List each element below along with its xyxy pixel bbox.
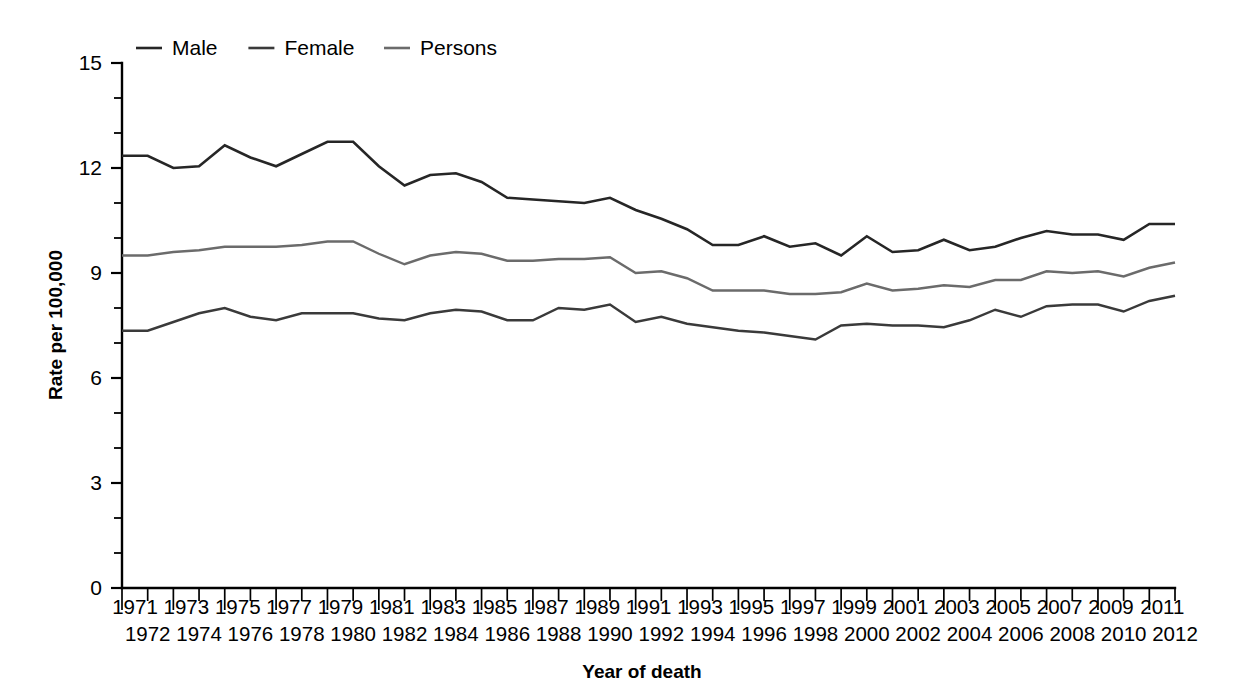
x-tick-label: 1983	[420, 595, 466, 618]
x-tick-label: 2007	[1037, 595, 1083, 618]
x-tick-label: 1990	[587, 622, 633, 645]
series-line-persons	[122, 242, 1175, 295]
x-tick-label: 2012	[1152, 622, 1198, 645]
x-tick-label: 1971	[112, 595, 158, 618]
x-tick-label: 1991	[626, 595, 672, 618]
series-line-male	[122, 142, 1175, 256]
x-tick-label: 2002	[895, 622, 941, 645]
x-tick-label: 2005	[985, 595, 1031, 618]
x-tick-label: 1992	[639, 622, 685, 645]
line-chart: MaleFemalePersons 03691215 1971197219731…	[0, 0, 1246, 692]
x-tick-label: 1993	[677, 595, 723, 618]
series-lines	[122, 142, 1175, 340]
y-axis: 03691215	[79, 51, 122, 599]
chart-legend: MaleFemalePersons	[136, 36, 497, 59]
x-tick-label: 1979	[318, 595, 364, 618]
x-tick-label: 1996	[741, 622, 787, 645]
y-tick-label: 0	[90, 576, 102, 599]
x-tick-label: 1972	[125, 622, 171, 645]
x-tick-label: 2006	[998, 622, 1044, 645]
x-tick-label: 1974	[176, 622, 222, 645]
y-tick-label: 12	[79, 156, 102, 179]
x-tick-label: 1982	[382, 622, 428, 645]
x-tick-label: 2001	[883, 595, 929, 618]
y-tick-label: 3	[90, 471, 102, 494]
y-tick-label: 6	[90, 366, 102, 389]
y-tick-label: 15	[79, 51, 102, 74]
x-tick-label: 2008	[1049, 622, 1095, 645]
series-line-female	[122, 296, 1175, 340]
x-tick-label: 1975	[215, 595, 261, 618]
legend-label-persons: Persons	[420, 36, 497, 59]
x-tick-label: 1988	[536, 622, 582, 645]
chart-container: MaleFemalePersons 03691215 1971197219731…	[0, 0, 1246, 692]
x-tick-label: 1989	[574, 595, 620, 618]
y-tick-label: 9	[90, 261, 102, 284]
x-tick-label: 1980	[330, 622, 376, 645]
x-tick-label: 1978	[279, 622, 325, 645]
x-tick-label: 1973	[164, 595, 210, 618]
x-tick-label: 1977	[266, 595, 312, 618]
x-tick-label: 2000	[844, 622, 890, 645]
x-tick-label: 1998	[793, 622, 839, 645]
x-tick-label: 2009	[1088, 595, 1134, 618]
x-tick-label: 1987	[523, 595, 569, 618]
x-tick-label: 2010	[1101, 622, 1147, 645]
legend-label-female: Female	[284, 36, 354, 59]
x-tick-label: 1976	[228, 622, 274, 645]
x-axis: 1971197219731974197519761977197819791980…	[112, 588, 1198, 645]
x-tick-label: 1999	[831, 595, 877, 618]
x-tick-label: 1997	[780, 595, 826, 618]
x-tick-label: 1985	[472, 595, 518, 618]
x-tick-label: 1995	[729, 595, 775, 618]
x-tick-label: 1994	[690, 622, 736, 645]
x-tick-label: 2003	[934, 595, 980, 618]
x-tick-label: 1984	[433, 622, 479, 645]
x-axis-title: Year of death	[582, 661, 701, 682]
x-tick-label: 1986	[484, 622, 530, 645]
x-tick-label: 2004	[947, 622, 993, 645]
y-axis-title: Rate per 100,000	[45, 250, 66, 400]
legend-label-male: Male	[172, 36, 218, 59]
x-tick-label: 2011	[1140, 595, 1184, 618]
x-tick-label: 1981	[369, 595, 415, 618]
